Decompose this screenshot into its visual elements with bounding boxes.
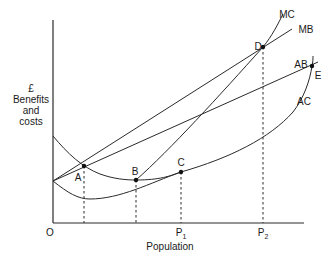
- benefits-costs-diagram: £ Benefits and costs O Population P1 P2 …: [0, 0, 333, 262]
- point-b: [134, 178, 138, 182]
- ac-upper-branch: [136, 172, 181, 180]
- y-axis-label-line1: £: [28, 83, 34, 94]
- label-a: A: [75, 172, 82, 183]
- label-mb: MB: [299, 24, 314, 35]
- label-ab: AB: [294, 59, 308, 70]
- origin-label: O: [46, 227, 54, 238]
- y-axis-label-line3: and: [23, 105, 40, 116]
- label-d: D: [254, 41, 261, 52]
- label-e: E: [315, 70, 322, 81]
- y-axis-label-line4: costs: [19, 116, 42, 127]
- tick-p1: P1: [176, 227, 187, 240]
- mc-curve: [53, 14, 283, 180]
- point-e: [310, 64, 314, 68]
- tick-p2: P2: [258, 227, 269, 240]
- x-axis-label: Population: [146, 241, 193, 252]
- label-c: C: [177, 157, 184, 168]
- point-a: [82, 164, 86, 168]
- ab-line: [53, 62, 318, 181]
- label-mc: MC: [279, 9, 295, 20]
- ac-curve: [53, 56, 313, 199]
- label-ac: AC: [297, 96, 311, 107]
- point-c: [179, 170, 183, 174]
- label-b: B: [132, 166, 139, 177]
- y-axis-label-line2: Benefits: [13, 94, 49, 105]
